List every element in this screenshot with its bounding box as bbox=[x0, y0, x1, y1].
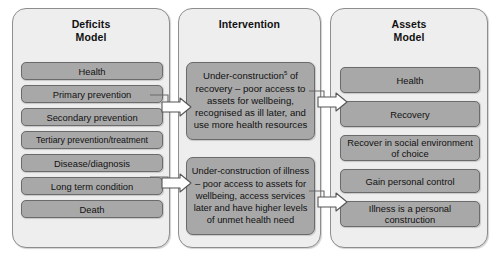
deficits-box-secondary-prevention: Secondary prevention bbox=[21, 108, 163, 126]
panel-intervention-title-line1: Intervention bbox=[179, 18, 320, 31]
panel-assets-title-line1: Assets bbox=[331, 18, 487, 31]
panel-intervention: Intervention Under-construction5 of reco… bbox=[178, 8, 321, 248]
deficits-box-disease-diagnosis: Disease/diagnosis bbox=[21, 154, 163, 172]
panel-deficits-model: Deficits Model Health Primary prevention… bbox=[12, 8, 170, 248]
panel-assets-model: Assets Model Health Recovery Recover in … bbox=[330, 8, 488, 248]
intervention-box-under-construction-recovery: Under-construction5 of recovery – poor a… bbox=[186, 62, 315, 140]
deficits-box-death: Death bbox=[21, 200, 163, 218]
panel-deficits-title: Deficits Model bbox=[13, 18, 169, 43]
intervention-box-under-construction-illness: Under-construction of illness – poor acc… bbox=[186, 157, 315, 235]
assets-box-recover-in-social-environment-of-choice: Recover in social environment of choice bbox=[340, 135, 480, 161]
assets-box-illness-is-a-personal-construction: Illness is a personal construction bbox=[340, 201, 480, 227]
panel-deficits-title-line2: Model bbox=[13, 31, 169, 44]
deficits-box-health: Health bbox=[21, 62, 163, 80]
assets-box-recovery: Recovery bbox=[340, 101, 480, 127]
panel-assets-title: Assets Model bbox=[331, 18, 487, 43]
assets-box-gain-personal-control: Gain personal control bbox=[340, 169, 480, 193]
panel-assets-title-line2: Model bbox=[331, 31, 487, 44]
flow-diagram: Deficits Model Health Primary prevention… bbox=[0, 0, 500, 256]
panel-intervention-title: Intervention bbox=[179, 18, 320, 31]
deficits-box-long-term-condition: Long term condition bbox=[21, 177, 163, 195]
panel-deficits-title-line1: Deficits bbox=[13, 18, 169, 31]
intervention-box-0-text: Under-construction5 of recovery – poor a… bbox=[191, 70, 310, 131]
deficits-box-tertiary-prevention-treatment: Tertiary prevention/treatment bbox=[21, 131, 163, 149]
deficits-box-primary-prevention: Primary prevention bbox=[21, 85, 163, 103]
assets-box-health: Health bbox=[340, 67, 480, 93]
intervention-box-1-text: Under-construction of illness – poor acc… bbox=[191, 165, 310, 226]
